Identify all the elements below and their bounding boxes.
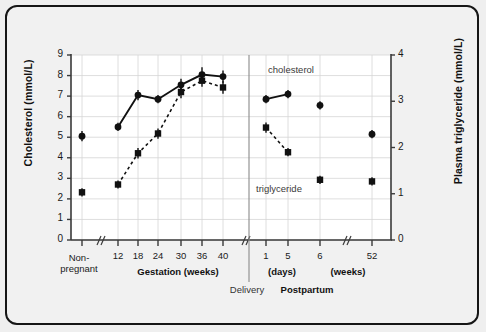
x-group-gestation: Gestation (weeks) [108,266,248,277]
x-tick-label-40: 40 [208,250,238,261]
y-axis-left-tick-2: 2 [47,192,63,203]
x-tick-label-5: 5 [273,250,303,261]
series-label-cholesterol: cholesterol [268,64,314,75]
x-group-days: (days) [252,266,312,277]
y-axis-left-tick-5: 5 [47,130,63,141]
y-axis-left-tick-4: 4 [47,151,63,162]
series-label-triglyceride: triglyceride [256,183,302,194]
y-axis-right-tick-1: 1 [398,187,414,198]
y-axis-left-tick-3: 3 [47,171,63,182]
np-line2: pregnant [60,263,98,274]
y-axis-left-tick-7: 7 [47,89,63,100]
chart-figure: Cholesterol (mmol/L) Plasma triglyceride… [0,0,486,332]
y-axis-left-tick-1: 1 [47,212,63,223]
x-label-delivery: Delivery [212,284,282,295]
y-axis-left-tick-0: 0 [47,233,63,244]
y-axis-right-title: Plasma triglyceride (mmol/L) [452,21,464,201]
x-group-weeks: (weeks) [318,266,378,277]
y-axis-right-tick-2: 2 [398,141,414,152]
y-axis-right-tick-4: 4 [398,48,414,59]
y-axis-left-tick-9: 9 [47,48,63,59]
np-line1: Non- [69,252,90,263]
x-tick-label-non-pregnant: Non- pregnant [53,252,105,274]
y-axis-right-tick-0: 0 [398,233,414,244]
y-axis-left-tick-6: 6 [47,110,63,121]
x-tick-label-52: 52 [357,250,387,261]
x-tick-label-6: 6 [305,250,335,261]
y-axis-right-tick-3: 3 [398,94,414,105]
y-axis-left-tick-8: 8 [47,69,63,80]
y-axis-left-title: Cholesterol (mmol/L) [22,28,34,198]
